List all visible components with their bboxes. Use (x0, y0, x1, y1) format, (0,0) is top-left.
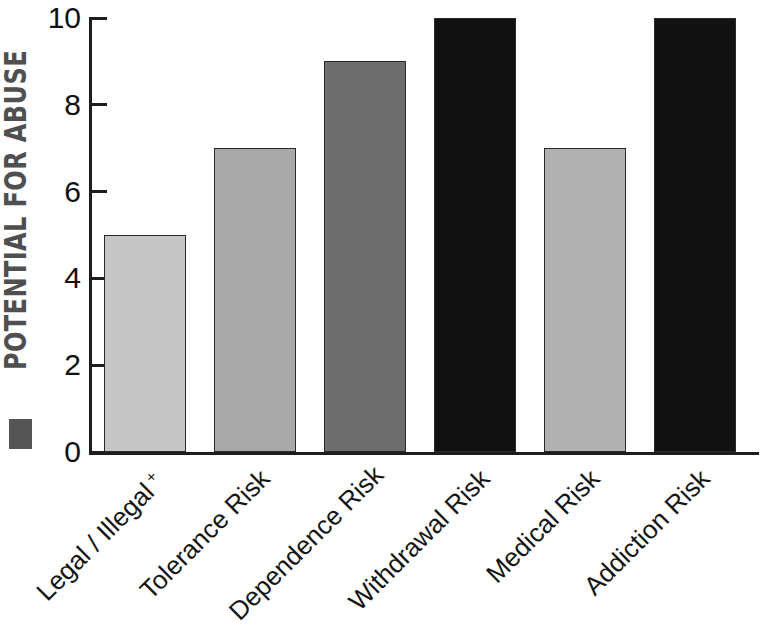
bar (324, 61, 406, 452)
bar (434, 18, 516, 452)
bar (104, 235, 186, 452)
x-axis-labels: Legal / Illegal +Tolerance RiskDependenc… (0, 452, 763, 634)
bar (544, 148, 626, 452)
bar (654, 18, 736, 452)
bar (214, 148, 296, 452)
bar-chart-figure: POTENTIAL FOR ABUSE 0246810 Legal / Ille… (0, 0, 763, 634)
bars-group (0, 0, 763, 452)
